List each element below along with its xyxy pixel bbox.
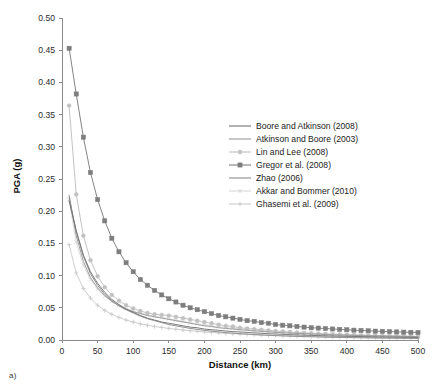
legend-label: Atkinson and Boore (2003) bbox=[256, 134, 358, 144]
legend-label: Akkar and Bommer (2010) bbox=[256, 186, 357, 196]
x-tick-label: 500 bbox=[411, 346, 426, 356]
series-zhao-2006 bbox=[69, 197, 418, 338]
series-ghasemi-et-al-2009 bbox=[67, 242, 420, 340]
series-container bbox=[67, 46, 420, 340]
series-gregor-et-al-2008 bbox=[67, 46, 420, 334]
series-atkinson-and-boore-2003 bbox=[69, 195, 418, 337]
legend-item: Atkinson and Boore (2003) bbox=[229, 134, 358, 144]
legend-label: Boore and Atkinson (2008) bbox=[256, 121, 358, 131]
y-tick-label: 0.40 bbox=[38, 77, 55, 87]
y-axis-ticks: 0.000.050.100.150.200.250.300.350.400.45… bbox=[38, 13, 62, 345]
x-axis-title: Distance (km) bbox=[209, 359, 271, 370]
y-tick-label: 0.25 bbox=[38, 174, 55, 184]
x-tick-label: 0 bbox=[60, 346, 65, 356]
legend-label: Gregor et al. (2008) bbox=[256, 160, 331, 170]
figure-panel-a: 050100150200250300350400450500 0.000.050… bbox=[0, 0, 438, 392]
x-tick-label: 400 bbox=[340, 346, 355, 356]
legend-item: Lin and Lee (2008) bbox=[229, 147, 328, 157]
legend-item: Zhao (2006) bbox=[229, 173, 303, 183]
panel-caption: a) bbox=[9, 371, 17, 380]
y-tick-label: 0.45 bbox=[38, 45, 55, 55]
x-tick-label: 350 bbox=[304, 346, 319, 356]
x-tick-label: 250 bbox=[233, 346, 248, 356]
legend-item: Gregor et al. (2008) bbox=[229, 160, 331, 170]
y-tick-label: 0.10 bbox=[38, 271, 55, 281]
x-tick-label: 100 bbox=[126, 346, 141, 356]
y-tick-label: 0.00 bbox=[38, 335, 55, 345]
plot-frame bbox=[62, 18, 418, 340]
x-tick-label: 300 bbox=[268, 346, 283, 356]
y-tick-label: 0.50 bbox=[38, 13, 55, 23]
chart-legend: Boore and Atkinson (2008)Atkinson and Bo… bbox=[229, 121, 358, 209]
y-tick-label: 0.15 bbox=[38, 238, 55, 248]
legend-item: Boore and Atkinson (2008) bbox=[229, 121, 358, 131]
y-tick-label: 0.35 bbox=[38, 110, 55, 120]
y-tick-label: 0.30 bbox=[38, 142, 55, 152]
x-tick-label: 50 bbox=[93, 346, 103, 356]
legend-label: Lin and Lee (2008) bbox=[256, 147, 328, 157]
pga-vs-distance-chart: 050100150200250300350400450500 0.000.050… bbox=[0, 0, 438, 392]
legend-item: Ghasemi et al. (2009) bbox=[229, 199, 339, 209]
legend-label: Ghasemi et al. (2009) bbox=[256, 199, 339, 209]
x-axis-ticks: 050100150200250300350400450500 bbox=[60, 340, 426, 356]
x-tick-label: 150 bbox=[162, 346, 177, 356]
series-boore-and-atkinson-2008 bbox=[69, 201, 418, 338]
y-tick-label: 0.20 bbox=[38, 206, 55, 216]
y-axis-title: PGA (g) bbox=[11, 158, 22, 193]
y-tick-label: 0.05 bbox=[38, 303, 55, 313]
x-tick-label: 200 bbox=[197, 346, 212, 356]
legend-item: Akkar and Bommer (2010) bbox=[229, 186, 357, 196]
legend-label: Zhao (2006) bbox=[256, 173, 303, 183]
x-tick-label: 450 bbox=[375, 346, 390, 356]
